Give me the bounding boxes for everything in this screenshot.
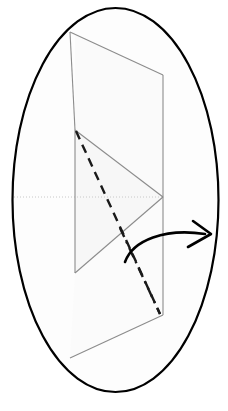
figure-container: Paper folding diagram Zigzag-folded shee… [0, 0, 228, 411]
paper-folding-diagram: Paper folding diagram Zigzag-folded shee… [0, 0, 228, 411]
sheet-panels [70, 32, 163, 358]
